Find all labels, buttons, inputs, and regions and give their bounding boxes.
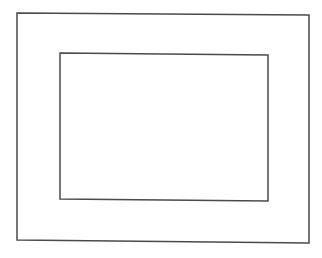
inner-rectangle (60, 53, 268, 201)
outer-rectangle (17, 13, 309, 243)
diagram-canvas (0, 0, 322, 258)
